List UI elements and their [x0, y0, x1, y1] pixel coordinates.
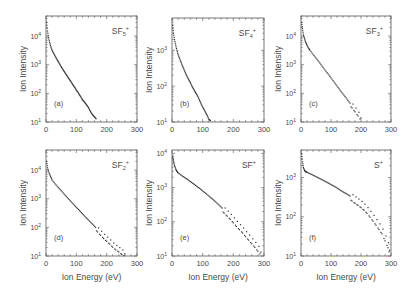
y-axis-label: Ion Intensity: [144, 46, 154, 93]
y-tick-label: 103: [285, 59, 296, 68]
x-tick-label: 100: [196, 259, 209, 268]
x-tick-label: 0: [44, 259, 48, 268]
y-axis-label: Ion Intensity: [273, 179, 283, 226]
y-tick-label: 104: [285, 31, 296, 40]
y-tick-label: 103: [285, 172, 296, 181]
x-tick-label: 300: [258, 125, 271, 134]
x-tick-label: 100: [70, 125, 83, 134]
y-tick-label: 101: [285, 251, 296, 260]
y-tick-label: 103: [30, 193, 41, 202]
panel-a: 0100200300101102103104Ion IntensitySF5+(…: [18, 16, 143, 134]
panel-letter: (f): [309, 233, 317, 242]
x-tick-label: 200: [227, 125, 240, 134]
y-tick-label: 101: [30, 117, 41, 126]
x-tick-label: 200: [227, 259, 240, 268]
y-axis-label: Ion Intensity: [18, 45, 28, 92]
panel-d: 0100200300101102103104Ion IntensityIon E…: [18, 150, 143, 282]
figure-grid: 0100200300101102103104Ion IntensitySF5+(…: [0, 0, 414, 293]
y-tick-label: 101: [30, 251, 41, 260]
panel-e: 0100200300101102103104Ion IntensityIon E…: [144, 148, 270, 282]
x-tick-label: 200: [100, 259, 113, 268]
x-tick-label: 200: [100, 125, 113, 134]
x-tick-label: 200: [355, 125, 368, 134]
y-tick-label: 101: [285, 117, 296, 126]
x-tick-label: 300: [385, 259, 398, 268]
x-tick-label: 100: [325, 125, 338, 134]
x-tick-label: 0: [299, 259, 303, 268]
y-tick-label: 101: [156, 117, 167, 126]
y-tick-label: 104: [30, 165, 41, 174]
y-tick-label: 104: [156, 148, 167, 157]
y-tick-label: 104: [30, 31, 41, 40]
panel-f: 0100200300101102103Ion IntensityIon Ener…: [273, 150, 397, 282]
y-tick-label: 103: [30, 59, 41, 68]
x-tick-label: 200: [355, 259, 368, 268]
y-tick-label: 102: [285, 211, 296, 220]
y-tick-label: 103: [156, 182, 167, 191]
x-axis-label: Ion Energy (eV): [188, 272, 248, 282]
species-label: SF3+: [366, 25, 383, 37]
x-tick-label: 300: [131, 259, 144, 268]
x-tick-label: 300: [131, 125, 144, 134]
x-axis-label: Ion Energy (eV): [62, 272, 122, 282]
y-tick-label: 102: [30, 88, 41, 97]
species-label: SF2+: [112, 159, 129, 171]
panel-letter: (a): [54, 99, 64, 108]
x-tick-label: 300: [385, 125, 398, 134]
species-label: SF5+: [112, 25, 129, 37]
x-tick-label: 100: [196, 125, 209, 134]
panel-letter: (e): [180, 233, 190, 242]
x-tick-label: 300: [258, 259, 271, 268]
x-axis-label: Ion Energy (eV): [316, 272, 376, 282]
y-tick-label: 102: [285, 88, 296, 97]
y-tick-label: 102: [156, 216, 167, 225]
y-tick-label: 102: [156, 81, 167, 90]
y-axis-label: Ion Intensity: [144, 179, 154, 226]
species-label: S+: [374, 159, 383, 170]
x-tick-label: 0: [170, 125, 174, 134]
species-label: SF+: [242, 159, 256, 170]
panel-c: 0100200300101102103104Ion IntensitySF3+(…: [273, 16, 397, 134]
y-tick-label: 102: [30, 222, 41, 231]
panel-letter: (c): [309, 99, 318, 108]
y-axis-label: Ion Intensity: [273, 45, 283, 92]
y-tick-label: 103: [156, 45, 167, 54]
data-points: [172, 25, 211, 122]
x-tick-label: 100: [325, 259, 338, 268]
y-axis-label: Ion Intensity: [18, 179, 28, 226]
x-tick-label: 100: [70, 259, 83, 268]
x-tick-label: 0: [44, 125, 48, 134]
x-tick-label: 0: [170, 259, 174, 268]
species-label: SF4+: [239, 27, 256, 39]
panel-letter: (d): [54, 233, 64, 242]
panel-b: 0100200300101102103Ion IntensitySF4+(b): [144, 18, 270, 134]
y-tick-label: 101: [156, 251, 167, 260]
panel-letter: (b): [180, 99, 190, 108]
x-tick-label: 0: [299, 125, 303, 134]
